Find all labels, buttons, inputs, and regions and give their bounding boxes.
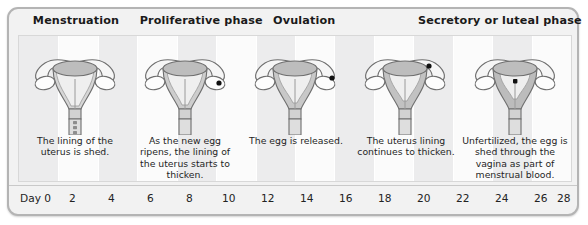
caption-ovulation: The egg is released.: [240, 135, 352, 146]
day-tick-12: 12: [261, 192, 274, 204]
egg-in-uterus: [513, 79, 517, 83]
uterus-diagram-proliferative: [133, 39, 237, 135]
day-axis-label-text: Day: [20, 192, 41, 204]
caption-menstruation: The lining of the uterus is shed.: [22, 135, 128, 158]
day-axis-label: Day 0: [20, 192, 51, 204]
day-tick-6: 6: [147, 192, 154, 204]
day-tick-22: 22: [456, 192, 469, 204]
phase-label-secretory: Secretory or luteal phase: [418, 14, 582, 27]
caption-row: The lining of the uterus is shed. As the…: [19, 135, 571, 182]
day-tick-14: 14: [300, 192, 313, 204]
day-tick-0: 0: [44, 192, 51, 204]
day-tick-24: 24: [495, 192, 508, 204]
day-tick-18: 18: [378, 192, 391, 204]
shedding-lining-marks: [73, 121, 77, 134]
uterus-diagram-menstruation: [23, 39, 127, 135]
day-tick-20: 20: [417, 192, 430, 204]
day-tick-28: 28: [557, 192, 570, 204]
ripening-egg: [216, 80, 221, 85]
day-tick-10: 10: [222, 192, 235, 204]
day-tick-26: 26: [534, 192, 547, 204]
phase-label-proliferative: Proliferative phase: [140, 14, 263, 27]
uterus-diagram-luteal-late: [463, 39, 567, 135]
day-axis: Day 0 2 4 6 8 10 12 14 16 18 20 22 24 26…: [9, 185, 577, 215]
uterus-diagram-luteal-early: [353, 39, 457, 135]
menstrual-cycle-figure: Menstruation Proliferative phase Ovulati…: [7, 7, 579, 216]
released-egg: [329, 75, 334, 80]
cycle-panel: The lining of the uterus is shed. As the…: [18, 35, 572, 182]
egg-in-tube: [426, 63, 431, 68]
day-tick-4: 4: [108, 192, 115, 204]
day-tick-16: 16: [339, 192, 352, 204]
day-tick-8: 8: [186, 192, 193, 204]
uterus-diagram-row: [19, 36, 571, 136]
caption-luteal-late: Unfertilized, the egg is shed through th…: [460, 135, 570, 181]
caption-luteal-early: The uterus lining continues to thicken.: [352, 135, 460, 158]
caption-proliferative: As the new egg ripens, the lining of the…: [132, 135, 238, 181]
day-tick-2: 2: [69, 192, 76, 204]
phase-label-menstruation: Menstruation: [33, 14, 119, 27]
uterus-diagram-ovulation: [243, 39, 347, 135]
phase-header-row: Menstruation Proliferative phase Ovulati…: [9, 9, 577, 35]
phase-label-ovulation: Ovulation: [273, 14, 335, 27]
